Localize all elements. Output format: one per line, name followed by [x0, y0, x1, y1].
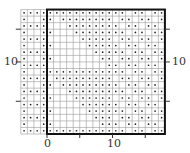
grid-dot [43, 104, 45, 106]
grid-dot [63, 84, 65, 86]
grid-dot [128, 104, 130, 106]
grid-dot [36, 77, 38, 79]
grid-dot [56, 71, 58, 73]
grid-dot [135, 51, 137, 53]
grid-dot [23, 97, 25, 99]
grid-dot [108, 25, 110, 27]
grid-dot [115, 130, 117, 132]
grid-dot [82, 77, 84, 79]
grid-dot [76, 25, 78, 27]
grid-dot [128, 58, 130, 60]
y-axis-label-10-right: 10 [172, 56, 186, 67]
grid-dot [23, 19, 25, 21]
grid-dot [161, 19, 163, 21]
grid-dot [82, 71, 84, 73]
grid-dot [69, 91, 71, 93]
grid-dot [141, 130, 143, 132]
grid-dot [135, 12, 137, 14]
grid-dot [102, 51, 104, 53]
grid-dot [95, 12, 97, 14]
grid-dot [148, 38, 150, 40]
grid-dot [36, 51, 38, 53]
grid-dot [154, 64, 156, 66]
grid-dot [141, 58, 143, 60]
grid-dot [63, 130, 65, 132]
grid-dot [108, 110, 110, 112]
grid-dot [23, 91, 25, 93]
grid-dot [76, 91, 78, 93]
grid-dot [49, 71, 51, 73]
grid-dot [23, 51, 25, 53]
grid-dot [161, 117, 163, 119]
grid-dot [30, 51, 32, 53]
grid-dot [49, 58, 51, 60]
grid-dot [161, 51, 163, 53]
grid-dot [23, 130, 25, 132]
grid-dot [121, 38, 123, 40]
grid-dot [89, 104, 91, 106]
grid-dot [115, 110, 117, 112]
grid-dot [121, 110, 123, 112]
grid-dot [23, 38, 25, 40]
grid-dot [128, 123, 130, 125]
grid-dot [23, 77, 25, 79]
grid-dot [95, 71, 97, 73]
grid-dot [43, 45, 45, 47]
grid-dot [121, 91, 123, 93]
grid-dot [141, 12, 143, 14]
grid-dot [128, 117, 130, 119]
grid-dot [115, 123, 117, 125]
grid-dot [102, 71, 104, 73]
grid-dot [154, 12, 156, 14]
grid-dot [154, 104, 156, 106]
grid-dot [121, 58, 123, 60]
grid-dot [82, 91, 84, 93]
grid-dot [76, 77, 78, 79]
grid-dot [108, 130, 110, 132]
grid-dot [108, 97, 110, 99]
y-axis-label-10-left: 10 [4, 56, 18, 67]
grid-dot [43, 97, 45, 99]
grid-dot [23, 110, 25, 112]
grid-dot [115, 64, 117, 66]
grid-dot [49, 110, 51, 112]
grid-dot [95, 38, 97, 40]
grid-dot [154, 91, 156, 93]
grid-dot [89, 12, 91, 14]
grid-dot [154, 123, 156, 125]
grid-dot [115, 71, 117, 73]
grid-dot [128, 77, 130, 79]
grid-dot [69, 130, 71, 132]
grid-dot [102, 84, 104, 86]
grid-dot [49, 19, 51, 21]
grid-dot [141, 110, 143, 112]
grid-dot [102, 38, 104, 40]
grid-dot [141, 71, 143, 73]
grid-dot [43, 77, 45, 79]
grid-dot [115, 45, 117, 47]
grid-dot [121, 71, 123, 73]
grid-dot [23, 64, 25, 66]
grid-dot [154, 84, 156, 86]
grid-dot [135, 32, 137, 34]
grid-dot [95, 84, 97, 86]
grid-dot [95, 91, 97, 93]
grid-dot [23, 117, 25, 119]
grid-dot [108, 77, 110, 79]
grid-dot [82, 84, 84, 86]
grid-dot [135, 84, 137, 86]
grid-dot [154, 130, 156, 132]
grid-dot [141, 77, 143, 79]
grid-dot [36, 104, 38, 106]
grid-dot [43, 32, 45, 34]
grid-dot [135, 130, 137, 132]
grid-dot [161, 110, 163, 112]
grid-dot [108, 58, 110, 60]
grid-dot [108, 38, 110, 40]
grid-dot [108, 91, 110, 93]
grid-dot [89, 71, 91, 73]
grid-dot [89, 45, 91, 47]
grid-dot [95, 110, 97, 112]
grid-dot [128, 38, 130, 40]
grid-dot [108, 51, 110, 53]
